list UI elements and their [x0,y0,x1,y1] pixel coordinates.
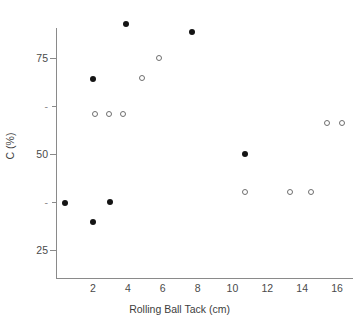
data-point-filled [90,219,96,225]
data-point-open [106,111,112,117]
data-point-open [324,120,330,126]
data-point-open [139,75,145,81]
data-point-filled [107,199,113,205]
data-point-filled [242,151,248,157]
data-point-open [92,111,98,117]
data-point-open [242,189,248,195]
data-point-open [120,111,126,117]
data-point-open [308,189,314,195]
x-axis-title: Rolling Ball Tack (cm) [0,303,359,315]
data-point-open [339,120,345,126]
data-point-open [156,55,162,61]
data-point-filled [90,76,96,82]
data-point-filled [189,29,195,35]
scatter-plot-figure: 75-50-25 246810121416 Rolling Ball Tack … [0,0,359,329]
data-point-filled [123,21,129,27]
data-point-filled [62,200,68,206]
data-point-open [287,189,293,195]
y-axis-title: C (%) [4,116,16,176]
plot-area [0,0,359,329]
